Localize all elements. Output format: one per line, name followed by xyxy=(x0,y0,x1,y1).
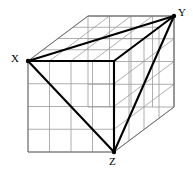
vertex-dot-z xyxy=(112,150,116,154)
vertex-dot-x xyxy=(26,59,30,63)
vertex-label-y: Y xyxy=(178,7,186,18)
figure-background xyxy=(0,0,193,176)
cube-lattice-figure xyxy=(0,0,193,176)
vertex-label-x: X xyxy=(11,53,19,64)
vertex-dot-y xyxy=(172,14,176,18)
vertex-label-z: Z xyxy=(109,156,116,167)
